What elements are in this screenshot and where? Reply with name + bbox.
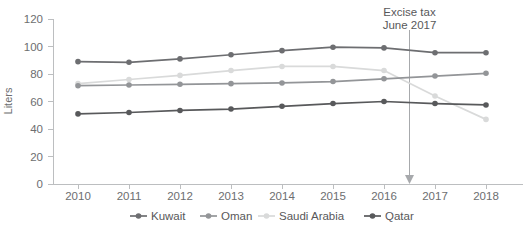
x-axis-ticks [78,184,486,189]
series-layer [75,44,489,122]
data-point[interactable] [177,82,183,88]
data-point[interactable] [432,50,438,56]
x-tick-label: 2016 [371,190,397,202]
data-point[interactable] [75,111,81,117]
y-tick-label: 60 [30,96,43,108]
legend-swatch-marker [136,213,142,219]
data-point[interactable] [177,56,183,62]
data-point[interactable] [126,82,132,88]
data-point[interactable] [381,76,387,82]
data-point[interactable] [381,99,387,105]
data-point[interactable] [432,101,438,107]
data-point[interactable] [279,64,285,70]
data-point[interactable] [483,50,489,56]
data-point[interactable] [126,77,132,83]
x-tick-label: 2014 [269,190,295,202]
data-point[interactable] [381,68,387,74]
data-point[interactable] [381,45,387,51]
data-point[interactable] [330,101,336,107]
data-point[interactable] [228,52,234,58]
legend-swatch-marker [370,213,376,219]
data-point[interactable] [483,102,489,108]
data-point[interactable] [330,79,336,85]
legend-item-saudi-arabia[interactable]: Saudi Arabia [258,210,345,222]
data-point[interactable] [432,73,438,79]
y-axis-title: Liters [2,87,14,114]
legend-swatch-marker [264,213,270,219]
data-point[interactable] [228,68,234,74]
data-point[interactable] [228,106,234,112]
y-tick-label: 120 [24,13,43,25]
annotation-text-line2: June 2017 [383,19,437,31]
x-tick-label: 2018 [473,190,499,202]
line-chart: Liters 120 100 80 60 40 20 0 [0,0,529,231]
x-tick-label: 2015 [320,190,346,202]
x-tick-label: 2012 [167,190,193,202]
chart-legend: KuwaitOmanSaudi ArabiaQatar [130,210,414,222]
data-point[interactable] [177,108,183,114]
annotation-arrow-icon [405,175,414,184]
y-tick-label: 40 [30,123,43,135]
y-tick-label: 100 [24,41,43,53]
excise-tax-annotation: Excise tax June 2017 [383,6,437,184]
chart-canvas: Liters 120 100 80 60 40 20 0 [0,0,529,231]
legend-label: Kuwait [151,210,186,222]
data-point[interactable] [279,48,285,54]
y-axis-ticks [48,19,53,184]
y-axis-tick-labels: 120 100 80 60 40 20 0 [24,13,43,190]
legend-label: Oman [221,210,252,222]
data-point[interactable] [432,93,438,99]
data-point[interactable] [177,73,183,79]
data-point[interactable] [330,64,336,70]
x-tick-label: 2010 [65,190,91,202]
legend-swatch-marker [206,213,212,219]
data-point[interactable] [126,60,132,66]
legend-item-qatar[interactable]: Qatar [364,210,414,222]
data-point[interactable] [330,44,336,50]
annotation-text-line1: Excise tax [383,6,436,18]
series-qatar [75,99,489,117]
y-tick-label: 20 [30,151,43,163]
y-tick-label: 80 [30,68,43,80]
x-tick-label: 2011 [117,190,142,202]
legend-item-kuwait[interactable]: Kuwait [130,210,186,222]
data-point[interactable] [279,104,285,110]
data-point[interactable] [279,80,285,86]
data-point[interactable] [126,110,132,116]
y-tick-label: 0 [37,178,43,190]
data-point[interactable] [483,71,489,77]
data-point[interactable] [228,81,234,87]
data-point[interactable] [75,83,81,89]
legend-label: Saudi Arabia [279,210,345,222]
series-saudi-arabia [75,64,489,123]
data-point[interactable] [75,59,81,65]
x-tick-label: 2017 [422,190,448,202]
legend-item-oman[interactable]: Oman [200,210,252,222]
series-kuwait [75,44,489,65]
x-axis-tick-labels: 2010 2011 2012 2013 2014 2015 2016 2017 … [65,190,499,202]
x-tick-label: 2013 [218,190,244,202]
data-point[interactable] [483,117,489,123]
legend-label: Qatar [385,210,414,222]
